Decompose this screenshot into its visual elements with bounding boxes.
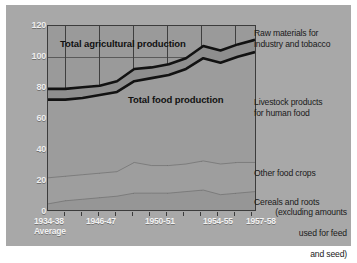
legend-cereals-main: Cereals and roots [254, 197, 319, 207]
chart-plate: 120 100 80 60 40 20 0 Total agricultural… [6, 5, 351, 246]
legend-cereals-line2: (excluding amounts [254, 207, 347, 218]
plot-area: Total agricultural production Total food… [47, 25, 256, 211]
x-label-1934-38-sub: Average [34, 226, 66, 236]
annotation-total-food-production: Total food production [128, 94, 223, 105]
y-tick-100: 100 [20, 52, 46, 61]
legend-cereals-line4: and seed) [254, 249, 347, 260]
legend-cereals-and-roots: Cereals and roots (excluding amounts use… [254, 186, 347, 263]
y-tick-120: 120 [20, 21, 46, 30]
legend-raw-materials: Raw materials for industry and tobacco [254, 28, 330, 49]
legend-cereals-line3: used for feed [254, 228, 347, 239]
y-axis: 120 100 80 60 40 20 0 [20, 17, 46, 219]
y-tick-20: 20 [20, 176, 46, 185]
x-label-1950-51: 1950-51 [145, 216, 175, 226]
x-axis-labels: 1934-38 Average 1946-47 1950-51 1954-55 … [20, 216, 270, 242]
y-tick-80: 80 [20, 83, 46, 92]
series-paths [48, 26, 255, 210]
x-label-1954-55: 1954-55 [203, 216, 233, 226]
x-label-1934-38-main: 1934-38 [34, 216, 64, 226]
y-tick-60: 60 [20, 114, 46, 123]
y-tick-0: 0 [20, 207, 46, 216]
y-tick-40: 40 [20, 145, 46, 154]
x-label-1946-47: 1946-47 [86, 216, 116, 226]
annotation-total-agricultural-production: Total agricultural production [60, 38, 186, 49]
legend-other-food-crops: Other food crops [254, 168, 316, 179]
legend-livestock-products: Livestock products for human food [254, 97, 322, 118]
x-label-1934-38: 1934-38 Average [34, 216, 66, 236]
